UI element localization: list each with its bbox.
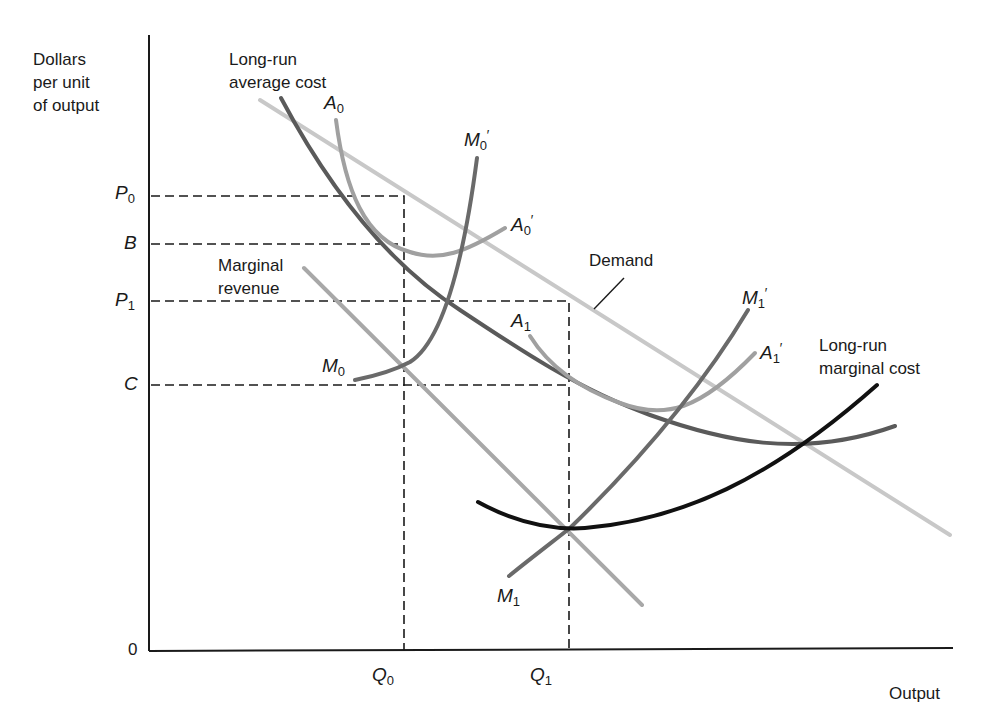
m0-curve bbox=[355, 158, 477, 380]
demand-pointer bbox=[594, 278, 624, 309]
y-tick-p1: P1 bbox=[115, 290, 135, 316]
m0-prime-label: M0′ bbox=[464, 125, 489, 156]
m1-label: M1 bbox=[497, 586, 520, 612]
m0-label: M0 bbox=[322, 356, 345, 382]
x-tick-q0: Q0 bbox=[372, 665, 394, 691]
y-label-line-2: per unit bbox=[33, 71, 99, 94]
lrmc-label: Long-run marginal cost bbox=[819, 334, 920, 380]
a0-prime-label: A0′ bbox=[511, 210, 533, 241]
lrac-label-line-2: average cost bbox=[229, 71, 326, 94]
a1-curve bbox=[530, 336, 755, 410]
y-label-line-3: of output bbox=[33, 94, 99, 117]
y-tick-c: C bbox=[124, 374, 138, 394]
x-axis-label: Output bbox=[889, 684, 940, 704]
a1-label: A1 bbox=[511, 311, 531, 337]
mr-label-line-2: revenue bbox=[218, 277, 283, 300]
y-label-line-1: Dollars bbox=[33, 48, 99, 71]
m1-prime-label: M1′ bbox=[742, 283, 767, 314]
demand-label: Demand bbox=[589, 251, 653, 271]
y-axis-label: Dollars per unit of output bbox=[33, 48, 99, 117]
marginal-revenue-label: Marginal revenue bbox=[218, 254, 283, 300]
lrmc-label-line-2: marginal cost bbox=[819, 357, 920, 380]
y-tick-p0: P0 bbox=[115, 183, 135, 209]
x-tick-q1: Q1 bbox=[530, 665, 552, 691]
lrac-curve bbox=[281, 98, 895, 444]
y-tick-b: B bbox=[124, 233, 137, 253]
lrac-label: Long-run average cost bbox=[229, 48, 326, 94]
m1-curve bbox=[509, 310, 748, 576]
mr-label-line-1: Marginal bbox=[218, 254, 283, 277]
a0-label: A0 bbox=[324, 93, 344, 119]
x-axis bbox=[149, 648, 953, 651]
origin-label: 0 bbox=[128, 640, 137, 660]
lrac-label-line-1: Long-run bbox=[229, 48, 326, 71]
demand-curve bbox=[260, 100, 950, 535]
a1-prime-label: A1′ bbox=[760, 338, 782, 369]
dashed-guides bbox=[151, 196, 569, 651]
lrmc-label-line-1: Long-run bbox=[819, 334, 920, 357]
